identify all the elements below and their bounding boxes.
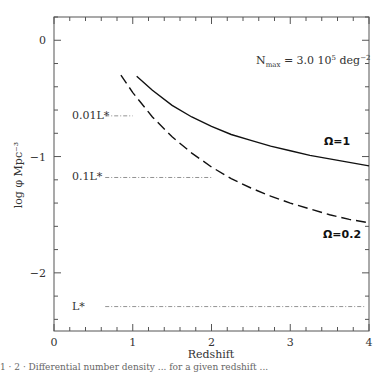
x-tick-label: 3: [287, 336, 294, 349]
reference-lines: 0.01L*0.1L*L*: [72, 109, 365, 313]
x-axis-label: Redshift: [188, 348, 235, 361]
curve-omega-0.2: [121, 75, 369, 223]
y-tick-label: −1: [30, 151, 46, 164]
y-tick-label: −2: [30, 267, 46, 280]
y-tick-label: 0: [39, 34, 46, 47]
curve-label-omega-1: Ω=1: [324, 135, 350, 148]
figure-caption: 1 · 2 · Differential number density ... …: [0, 362, 388, 374]
chart: 012340−1−2 Redshift log φ Mpc⁻³ 0.01L*0.…: [0, 0, 388, 374]
nmax-annotation: Nmax = 3.0 105 deg−2: [256, 54, 370, 69]
curves: [121, 75, 369, 223]
curve-omega-1: [137, 76, 369, 166]
curve-label-omega-0.2: Ω=0.2: [323, 228, 361, 241]
y-axis-label: log φ Mpc⁻³: [12, 142, 25, 209]
reference-label: 0.1L*: [72, 170, 103, 183]
x-tick-label: 1: [129, 336, 136, 349]
x-tick-label: 4: [366, 336, 373, 349]
reference-label: 0.01L*: [72, 109, 110, 122]
x-tick-label: 0: [51, 336, 58, 349]
reference-label: L*: [72, 300, 85, 313]
